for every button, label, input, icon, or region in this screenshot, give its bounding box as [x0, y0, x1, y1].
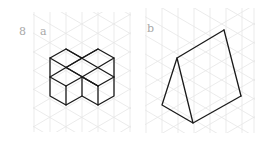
isometric-grid-b — [80, 0, 270, 143]
panel-label-b: b — [147, 23, 154, 34]
cube-stack-shape — [50, 49, 114, 105]
isometric-grid-a — [0, 0, 200, 143]
figure-number: 8 — [19, 26, 26, 37]
figure-canvas: 8 a b — [0, 0, 270, 143]
triangular-prism-shape — [162, 30, 241, 123]
panel-label-a: a — [40, 26, 47, 37]
isometric-grid-and-shapes — [0, 0, 270, 143]
